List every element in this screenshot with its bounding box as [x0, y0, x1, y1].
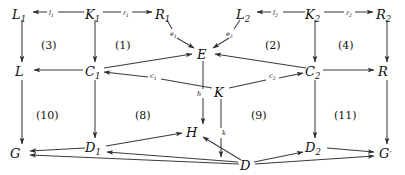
diagram-canvas: L1 K1 R1 L2 K2 R2 E L C1 C2 R K G D1 H D…	[0, 0, 405, 175]
region-label-11: (11)	[334, 109, 357, 122]
node-D: D	[239, 158, 251, 173]
edge-D1-to-G	[30, 148, 85, 151]
edge-D-to-D1	[107, 152, 238, 162]
node-G-prime: G′	[379, 146, 391, 161]
region-label-2: (2)	[265, 39, 281, 52]
edge-label-r2: r2	[346, 9, 352, 18]
node-D1: D1	[84, 140, 101, 157]
node-L: L	[14, 64, 24, 79]
region-label-4: (4)	[338, 39, 354, 52]
commutative-diagram: L1 K1 R1 L2 K2 R2 E L C1 C2 R K G D1 H D…	[0, 0, 405, 175]
node-L1: L1	[11, 7, 26, 24]
node-K1: K1	[84, 7, 100, 24]
edge-D-to-Gp	[255, 156, 374, 164]
edge-label-h: h	[197, 90, 201, 98]
edge-label-r1: r1	[123, 9, 129, 18]
node-H: H	[185, 125, 198, 140]
node-L2: L2	[235, 7, 250, 24]
edge-label-c2: c2	[269, 72, 276, 81]
node-R2: R2	[375, 7, 391, 24]
edge-label-l2: l2	[273, 9, 278, 18]
edges-layer	[22, 12, 387, 164]
node-R1: R1	[154, 7, 170, 24]
edge-C2-to-E	[215, 54, 306, 68]
region-label-8: (8)	[135, 109, 151, 122]
node-G: G	[10, 146, 20, 161]
node-R: R	[377, 64, 388, 79]
node-K2: K2	[304, 7, 320, 24]
edge-D1-to-H	[106, 133, 182, 146]
edge-K-to-C2	[229, 73, 303, 88]
edge-K-to-C1	[104, 72, 212, 88]
region-label-1: (1)	[115, 39, 131, 52]
edge-D-to-D2	[254, 152, 303, 162]
edge-D2-to-Gp	[327, 148, 374, 152]
region-label-9: (9)	[251, 109, 267, 122]
region-label-10: (10)	[36, 109, 59, 122]
edge-label-k: k	[222, 129, 226, 137]
node-K: K	[213, 85, 225, 100]
edge-label-e1: e1	[170, 30, 177, 39]
edge-C1-to-E	[104, 54, 192, 68]
node-D2: D2	[304, 140, 321, 157]
region-label-3: (3)	[41, 39, 57, 52]
node-C2: C2	[305, 64, 320, 81]
node-E: E	[196, 47, 207, 62]
edge-label-e2: e2	[226, 30, 233, 39]
edge-D-to-H	[203, 137, 241, 160]
edge-label-l1: l1	[49, 9, 54, 18]
node-C1: C1	[85, 64, 100, 81]
edge-label-c1: c1	[150, 72, 157, 81]
